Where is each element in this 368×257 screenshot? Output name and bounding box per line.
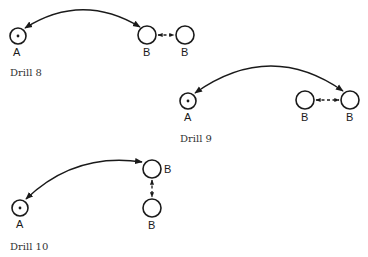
node-b [296,91,314,109]
center-dot-icon [19,207,22,210]
solid-double-arrow [26,160,142,199]
node-label-b: B [181,46,188,58]
node-b [176,26,194,44]
drill-diagrams: A B B Drill 8 A B B Drill 9 A B B Drill … [0,0,368,257]
center-dot-icon [17,35,20,38]
node-label-b: B [164,163,171,175]
node-b [143,199,161,217]
drill-9: A B B Drill 9 [180,66,359,144]
drill-caption: Drill 8 [10,67,42,78]
center-dot-icon [187,100,190,103]
node-label-b: B [148,219,155,231]
solid-double-arrow [25,10,140,28]
solid-double-arrow [195,66,343,93]
node-label-b: B [346,111,353,123]
drill-caption: Drill 10 [10,241,48,252]
node-label-a: A [16,218,24,230]
drill-8: A B B Drill 8 [10,10,194,78]
node-label-b: B [301,111,308,123]
node-label-a: A [184,111,192,123]
node-b [143,160,161,178]
node-b [138,26,156,44]
node-label-a: A [13,46,21,58]
node-b [341,91,359,109]
drill-10: A B B Drill 10 [10,160,171,252]
drill-caption: Drill 9 [180,133,212,144]
node-label-b: B [143,46,150,58]
